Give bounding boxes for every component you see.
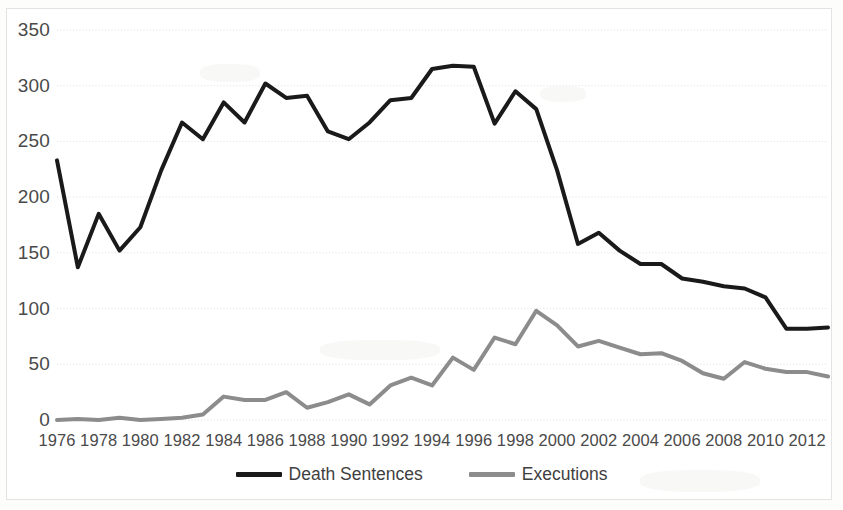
series-line-executions: [57, 311, 828, 420]
chart-screenshot: 350300250200150100500 197619781980198219…: [0, 0, 843, 510]
gridlines: [57, 30, 828, 420]
y-tick-label: 200: [2, 187, 50, 206]
legend-label: Executions: [522, 466, 608, 484]
legend-item[interactable]: Executions: [469, 466, 608, 484]
y-tick-label: 100: [2, 299, 50, 318]
legend-label: Death Sentences: [289, 466, 423, 484]
series-lines: [57, 66, 828, 420]
legend-swatch: [469, 472, 515, 477]
y-tick-label: 0: [2, 410, 50, 429]
chart-legend: Death SentencesExecutions: [0, 466, 843, 484]
y-tick-label: 250: [2, 131, 50, 150]
legend-swatch: [236, 472, 282, 477]
y-tick-label: 350: [2, 20, 50, 39]
x-tick-label: 2012: [781, 432, 833, 449]
legend-item[interactable]: Death Sentences: [236, 466, 423, 484]
y-tick-label: 300: [2, 76, 50, 95]
y-tick-label: 150: [2, 243, 50, 262]
y-tick-label: 50: [2, 354, 50, 373]
